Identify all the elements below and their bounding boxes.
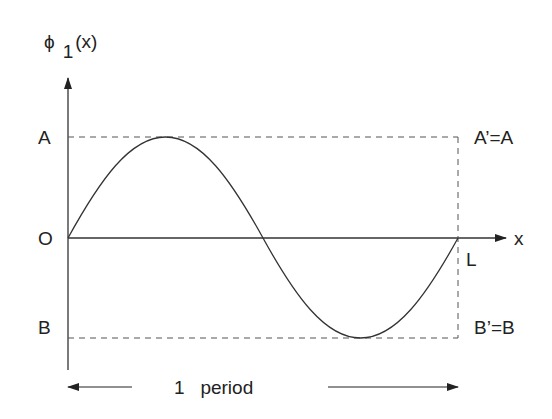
label-A-prime: A’=A — [474, 128, 513, 147]
period-label: 1 period — [174, 378, 253, 397]
phi-symbol: ϕ — [44, 31, 55, 52]
label-B: B — [38, 318, 51, 337]
y-label-arg: (x) — [75, 31, 97, 52]
label-B-prime: B’=B — [474, 318, 515, 337]
x-axis-label: x — [514, 229, 524, 248]
label-O: O — [38, 229, 53, 248]
label-L: L — [466, 250, 477, 269]
waveform-diagram — [0, 0, 552, 419]
label-A: A — [38, 128, 51, 147]
y-label-subscript: 1 — [63, 41, 74, 62]
y-axis-label: ϕ1(x) — [44, 32, 97, 51]
